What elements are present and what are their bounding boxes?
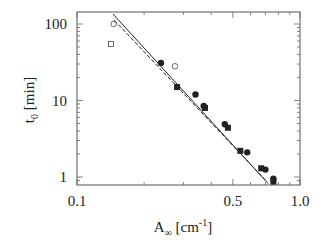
x-axis-label-main: A xyxy=(154,219,165,235)
fit-lines xyxy=(113,14,268,184)
open-circle-point xyxy=(111,21,117,27)
x-axis-label-sup: -1 xyxy=(199,217,207,228)
open-square-point xyxy=(108,41,113,46)
axis-tick-labels: 0.10.51.0110100 xyxy=(45,16,310,209)
y-axis-label-unit: [min] xyxy=(21,77,37,114)
filled-square-point xyxy=(270,179,276,185)
axis-ticks xyxy=(77,12,300,185)
x-axis-label: A∞ [cm-1] xyxy=(154,217,212,238)
x-tick-label: 0.5 xyxy=(223,193,242,209)
y-tick-label: 10 xyxy=(52,93,67,109)
filled-square-point xyxy=(225,125,231,131)
x-axis-label-unit: [cm xyxy=(172,219,199,235)
filled-square-point xyxy=(258,165,264,171)
filled-circle-point xyxy=(244,149,250,155)
plot-frame xyxy=(77,12,300,185)
filled-square-point xyxy=(174,84,180,90)
filled-square-point xyxy=(237,148,243,154)
y-axis-label: t0 [min] xyxy=(21,77,40,123)
filled-circle-point xyxy=(158,60,164,66)
x-axis-label-close: ] xyxy=(207,219,212,235)
open-circle-point xyxy=(172,63,178,69)
x-tick-label: 1.0 xyxy=(291,193,310,209)
x-axis-label-sub: ∞ xyxy=(165,227,172,238)
y-tick-label: 100 xyxy=(45,16,68,32)
chart: 0.10.51.0110100 A∞ [cm-1] t0 [min] xyxy=(0,0,327,243)
filled-square-point xyxy=(202,105,208,111)
y-tick-label: 1 xyxy=(60,169,68,185)
x-tick-label: 0.1 xyxy=(68,193,87,209)
filled-circle-point xyxy=(192,91,198,97)
data-points xyxy=(108,21,276,184)
fit-dashed xyxy=(114,20,265,180)
